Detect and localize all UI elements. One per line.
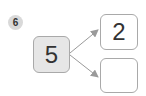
arrow-down-icon [70,55,98,77]
target-box-top: 2 [100,14,138,50]
source-number-box: 5 [33,36,70,73]
answer-box-bottom[interactable] [100,58,138,93]
arrow-up-icon [70,30,98,53]
